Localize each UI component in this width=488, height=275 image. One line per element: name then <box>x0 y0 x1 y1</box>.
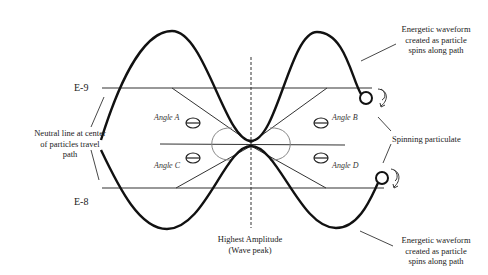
annotation-waveform-bottom: Energetic waveform created as particle s… <box>386 235 486 267</box>
annotation-neutral-line: Neutral line at center of particles trav… <box>20 128 120 160</box>
annotation-line: spins along path <box>386 45 486 56</box>
particle-upper <box>360 92 372 104</box>
annotation-waveform-top: Energetic waveform created as particle s… <box>386 24 486 56</box>
annotation-amplitude: Highest Amplitude (Wave peak) <box>200 234 300 255</box>
annotation-line: Energetic waveform <box>386 24 486 35</box>
angle-label-c: Angle C <box>154 161 180 170</box>
annotation-line: created as particle <box>386 35 486 46</box>
theta-icon-a <box>186 118 200 128</box>
annotation-line: created as particle <box>386 246 486 257</box>
pointer-spin-up <box>378 117 391 131</box>
theta-icon-c <box>186 153 200 163</box>
neutral-line <box>160 144 345 145</box>
annotation-line: spins along path <box>386 256 486 267</box>
angle-label-d: Angle D <box>332 161 358 170</box>
annotation-line: Energetic waveform <box>386 235 486 246</box>
level-label-e9: E-9 <box>74 82 88 93</box>
upper-waveform <box>101 31 361 141</box>
angle-label-a: Angle A <box>154 113 179 122</box>
theta-icon-d <box>314 153 328 163</box>
theta-icon-b <box>314 118 328 128</box>
annotation-line: Highest Amplitude <box>200 234 300 245</box>
angle-arc-right <box>270 128 290 160</box>
particle-lower <box>376 172 388 184</box>
pointer-neutral-up <box>91 97 104 127</box>
spin-arrow-lower-icon <box>391 169 399 188</box>
annotation-spinning: Spinning particulate <box>392 134 488 145</box>
annotation-line: (Wave peak) <box>200 245 300 256</box>
spin-arrow-upper-icon <box>378 89 386 107</box>
angle-label-b: Angle B <box>332 113 358 122</box>
annotation-line: Neutral line at center <box>20 128 120 139</box>
annotation-line: path <box>20 149 120 160</box>
level-label-e8: E-8 <box>74 196 88 207</box>
annotation-line: of particles travel <box>20 139 120 150</box>
pointer-spin-down <box>383 144 391 163</box>
